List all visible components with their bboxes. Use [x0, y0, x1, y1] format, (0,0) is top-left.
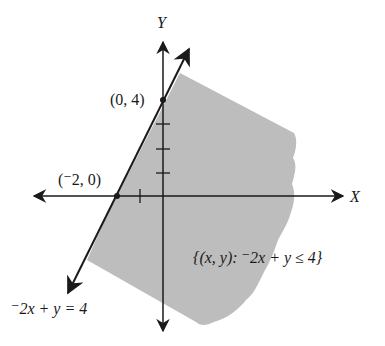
point-label-x-intercept: (⁻2, 0) [58, 172, 101, 188]
point-label-y-intercept: (0, 4) [110, 92, 145, 108]
inequality-graph: Y X (0, 4) (⁻2, 0) ⁻2x + y = 4 {(x, y): … [0, 0, 385, 346]
point-y-intercept [160, 97, 166, 103]
boundary-equation-label: ⁻2x + y = 4 [11, 301, 87, 317]
point-x-intercept [114, 193, 120, 199]
y-axis-label: Y [157, 15, 166, 31]
region-set-label: {(x, y): ⁻2x + y ≤ 4} [193, 250, 322, 266]
shaded-region [87, 73, 296, 325]
x-axis-label: X [350, 189, 360, 205]
